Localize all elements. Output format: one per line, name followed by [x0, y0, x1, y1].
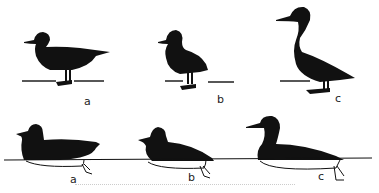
faint-caption: [75, 184, 295, 187]
label-bottom-c: c: [318, 171, 324, 182]
swimming-duck-b-icon: [138, 127, 214, 161]
duck-illustration: [0, 0, 379, 193]
label-top-a: a: [84, 96, 91, 107]
label-top-c: c: [335, 93, 341, 104]
swimming-duck-c-icon: [246, 116, 344, 160]
label-top-b: b: [217, 94, 224, 105]
swimming-duck-a-icon: [16, 124, 100, 160]
label-bottom-b: b: [188, 172, 195, 183]
standing-duck-a-icon: [24, 32, 110, 86]
